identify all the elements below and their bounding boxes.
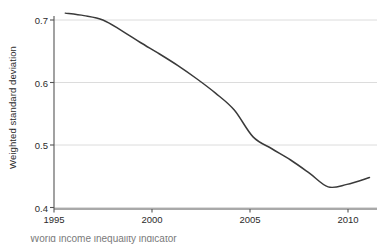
chart-figure: Weighted standard deviation 0.7 0.6 0.5 … <box>0 0 377 245</box>
plot-area <box>0 0 377 245</box>
gridlines <box>54 20 377 208</box>
data-line-weighted-standard-deviation <box>65 13 369 187</box>
cropped-caption: World income inequality indicator <box>30 236 330 245</box>
y-tick-marks <box>50 20 54 208</box>
cropped-caption-text: World income inequality indicator <box>30 236 330 244</box>
